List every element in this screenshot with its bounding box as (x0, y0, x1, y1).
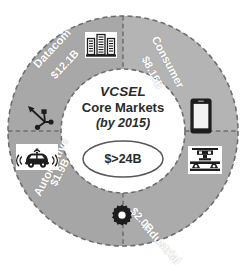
usb-network-icon (25, 103, 55, 131)
car-sensor-icon (16, 144, 58, 170)
gear-icon (110, 203, 134, 227)
industrial-machine-icon (188, 146, 222, 174)
smartphone-icon (189, 97, 213, 135)
datacenter-servers-icon (85, 32, 117, 58)
total-ellipse (83, 141, 163, 177)
